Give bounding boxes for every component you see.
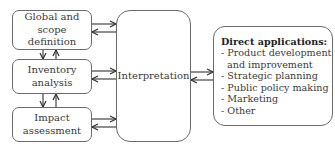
direct-applications-box: Direct applications: - Product developme… (213, 26, 333, 126)
direct-applications-title: Direct applications: (221, 36, 327, 48)
interpretation-box: Interpretation (116, 10, 191, 142)
application-item: - Strategic planning (221, 70, 318, 82)
application-item: and improvement (221, 59, 313, 71)
global-line-2: scope definition (13, 24, 91, 49)
application-item: - Marketing (221, 93, 278, 105)
application-item: - Public policy making (221, 82, 329, 94)
impact-line-1: Impact (23, 112, 81, 125)
inventory-line-1: Inventory (28, 64, 77, 77)
impact-line-2: assessment (23, 125, 81, 138)
application-item: - Other (221, 105, 255, 117)
global-scope-definition-box: Global and scope definition (12, 10, 92, 50)
global-line-1: Global and (13, 11, 91, 24)
impact-assessment-box: Impact assessment (12, 107, 92, 142)
inventory-line-2: analysis (28, 77, 77, 90)
interpretation-label: Interpretation (118, 70, 190, 83)
application-item: - Product development (221, 47, 331, 59)
inventory-analysis-box: Inventory analysis (12, 59, 92, 94)
